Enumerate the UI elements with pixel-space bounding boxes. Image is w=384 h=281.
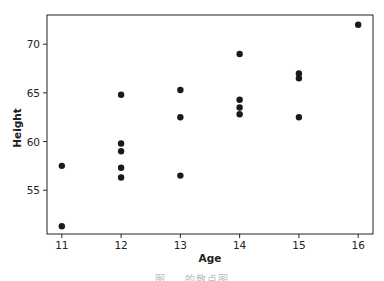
- y-tick-label: 70: [27, 38, 40, 50]
- x-axis-label: Age: [199, 252, 222, 264]
- x-tick-label: 13: [174, 239, 187, 251]
- figure-caption: 图 … 的散点图: [0, 271, 384, 281]
- x-tick-label: 16: [351, 239, 365, 251]
- x-axis-ticks: 111213141516: [55, 234, 365, 251]
- y-tick-label: 65: [27, 87, 40, 99]
- y-axis-ticks: 55606570: [27, 38, 47, 196]
- y-tick-label: 60: [27, 136, 40, 148]
- data-point: [236, 111, 242, 117]
- data-point: [59, 223, 65, 229]
- data-point: [177, 87, 183, 93]
- x-tick-label: 12: [114, 239, 127, 251]
- x-tick-label: 14: [233, 239, 247, 251]
- x-tick-label: 11: [55, 239, 68, 251]
- data-point: [236, 51, 242, 57]
- data-point: [59, 163, 65, 169]
- data-point: [118, 148, 124, 154]
- data-point: [355, 22, 361, 28]
- y-axis-label: Height: [11, 108, 23, 148]
- plot-frame: [47, 15, 373, 234]
- data-point: [118, 92, 124, 98]
- data-point: [118, 165, 124, 171]
- y-tick-label: 55: [27, 184, 40, 196]
- data-point: [236, 104, 242, 110]
- data-point: [177, 114, 183, 120]
- data-point: [296, 75, 302, 81]
- data-point: [118, 140, 124, 146]
- x-tick-label: 15: [292, 239, 305, 251]
- data-point: [236, 96, 242, 102]
- data-point: [296, 114, 302, 120]
- scatter-chart: 111213141516 55606570 Age Height: [0, 0, 384, 281]
- data-point: [118, 174, 124, 180]
- data-point: [177, 172, 183, 178]
